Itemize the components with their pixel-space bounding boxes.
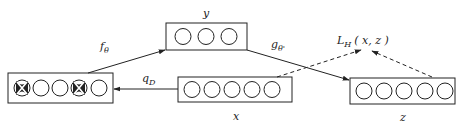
decoder-label: gθ' bbox=[271, 38, 285, 53]
unit-circle bbox=[184, 82, 200, 98]
input-layer-label: x bbox=[233, 110, 240, 123]
unit-circle bbox=[91, 80, 107, 96]
unit-circle bbox=[376, 83, 392, 99]
unit-circle bbox=[264, 82, 280, 98]
input-layer: x bbox=[178, 77, 292, 123]
encoder-label: fθ bbox=[99, 40, 109, 55]
encoder-arrow bbox=[88, 50, 165, 73]
unit-circle bbox=[33, 80, 49, 96]
unit-circle bbox=[244, 82, 260, 98]
corrupted-input-layer bbox=[8, 73, 113, 103]
unit-circle bbox=[396, 83, 412, 99]
dropped-unit-icon bbox=[14, 80, 30, 96]
loss-label: LH( x, z ) bbox=[336, 34, 389, 49]
hidden-layer-label: y bbox=[202, 7, 210, 20]
unit-circle bbox=[204, 82, 220, 98]
unit-circle bbox=[198, 29, 214, 45]
unit-circle bbox=[221, 29, 237, 45]
corruption-label: qD bbox=[142, 72, 156, 87]
decoder-arrow bbox=[247, 50, 349, 80]
unit-circle bbox=[52, 80, 68, 96]
dropped-unit-icon bbox=[71, 80, 87, 96]
unit-circle bbox=[224, 82, 240, 98]
hidden-layer: y bbox=[166, 7, 247, 50]
loss-arrow-from-input bbox=[277, 50, 361, 77]
autoencoder-diagram: y x z fθ gθ' qD LH( x, z ) bbox=[0, 0, 465, 129]
unit-circle bbox=[437, 83, 453, 99]
reconstruction-layer-label: z bbox=[399, 111, 406, 124]
reconstruction-layer: z bbox=[350, 78, 455, 124]
unit-circle bbox=[417, 83, 433, 99]
unit-circle bbox=[356, 83, 372, 99]
unit-circle bbox=[175, 29, 191, 45]
loss-arrow-from-reconstruction bbox=[372, 51, 432, 77]
